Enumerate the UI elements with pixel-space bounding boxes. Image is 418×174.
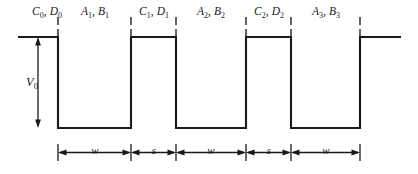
dimension-label-s-2: s <box>267 145 271 156</box>
region-4-first-sub: 2 <box>262 11 266 20</box>
potential-trace <box>18 37 401 128</box>
region-0-first: C <box>32 5 40 17</box>
dimension-label-w-3: w <box>322 145 329 156</box>
region-4-second-sub: 2 <box>280 11 284 20</box>
region-5-second-sub: 3 <box>336 11 340 20</box>
region-0-second: D <box>50 5 58 17</box>
region-1-second-sub: 1 <box>105 11 109 20</box>
dim-arrow-right <box>352 150 361 156</box>
dim-arrow-left <box>246 150 255 156</box>
v0-arrow-head-up <box>35 37 41 46</box>
region-0-second-sub: 0 <box>58 11 62 20</box>
dimension-label-s-1: s <box>152 145 156 156</box>
region-label-3: A2, B2 <box>197 6 225 18</box>
depth-label-v0: V0 <box>26 76 38 89</box>
region-2-second-sub: 1 <box>165 11 169 20</box>
dim-arrow-left <box>58 150 67 156</box>
dim-arrow-right <box>283 150 292 156</box>
region-5-first-sub: 3 <box>319 11 323 20</box>
edge-guide-ticks <box>58 17 360 36</box>
region-1-first-sub: 1 <box>88 11 92 20</box>
dim-arrow-left <box>291 150 300 156</box>
region-label-5: A3, B3 <box>312 6 340 18</box>
region-label-2: C1, D1 <box>139 6 169 18</box>
dim-arrow-right <box>123 150 132 156</box>
dimension-label-w-2: w <box>207 145 214 156</box>
potential-well-figure: C0, D0 A1, B1 C1, D1 A2, B2 C2, D2 A3, B… <box>0 0 418 174</box>
region-3-first-sub: 2 <box>204 11 208 20</box>
dim-arrow-right <box>168 150 177 156</box>
dim-arrow-left <box>131 150 140 156</box>
v0-arrow-head-down <box>35 120 41 129</box>
region-0-first-sub: 0 <box>40 11 44 20</box>
region-4-second: D <box>272 5 280 17</box>
region-2-first: C <box>139 5 147 17</box>
region-4-first: C <box>254 5 262 17</box>
region-2-second: D <box>157 5 165 17</box>
region-2-first-sub: 1 <box>147 11 151 20</box>
region-label-0: C0, D0 <box>32 6 62 18</box>
dim-arrow-right <box>238 150 247 156</box>
dim-arrow-left <box>176 150 185 156</box>
region-label-4: C2, D2 <box>254 6 284 18</box>
dimension-label-w-1: w <box>91 145 98 156</box>
depth-label-symbol: V <box>26 75 34 89</box>
region-label-1: A1, B1 <box>81 6 109 18</box>
region-3-second-sub: 2 <box>221 11 225 20</box>
depth-label-subscript: 0 <box>34 81 38 91</box>
